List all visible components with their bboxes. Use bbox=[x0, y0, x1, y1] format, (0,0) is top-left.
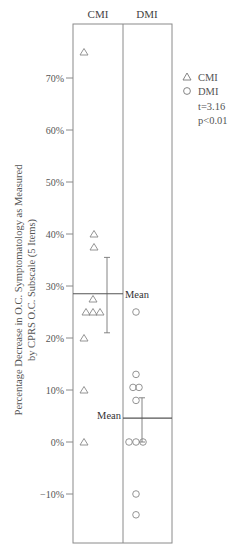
y-tick-label: 20% bbox=[46, 333, 64, 344]
y-tick-label: 70% bbox=[46, 73, 64, 84]
circle-marker bbox=[126, 439, 133, 446]
circle-marker bbox=[133, 491, 140, 498]
triangle-marker bbox=[96, 309, 104, 316]
triangle-marker bbox=[80, 335, 88, 342]
y-tick-label: 10% bbox=[46, 385, 64, 396]
y-axis-label-line2: by CPRS O.C. Subscale (5 Items) bbox=[26, 218, 38, 361]
legend-label-cmi: CMI bbox=[198, 72, 218, 83]
circle-marker bbox=[133, 371, 140, 378]
y-axis-label: Percentage Decrease in O.C. Symptomatolo… bbox=[13, 164, 38, 416]
triangle-marker bbox=[89, 309, 97, 316]
circle-marker bbox=[133, 397, 140, 404]
triangle-marker bbox=[80, 49, 88, 56]
y-tick-label: 40% bbox=[46, 229, 64, 240]
y-tick-label: −10% bbox=[40, 489, 64, 500]
mean-label-dmi: Mean bbox=[97, 410, 122, 421]
legend-item-cmi: CMI bbox=[183, 72, 218, 83]
y-tick-label: 50% bbox=[46, 177, 64, 188]
circle-marker bbox=[133, 309, 140, 316]
plot-frame bbox=[73, 24, 172, 543]
legend-item-dmi: DMI bbox=[184, 86, 219, 97]
y-tick-label: 60% bbox=[46, 125, 64, 136]
circle-marker bbox=[133, 512, 140, 519]
y-axis-label-line1: Percentage Decrease in O.C. Symptomatolo… bbox=[13, 164, 24, 416]
series-dmi bbox=[123, 309, 172, 518]
y-tick-label: 0% bbox=[51, 437, 64, 448]
column-header-cmi: CMI bbox=[88, 8, 109, 20]
dot-plot-chart: CMI DMI 70%60%50%40%30%20%10%0%−10% Perc… bbox=[0, 0, 242, 556]
legend: CMI DMI t=3.16 p<0.01 bbox=[183, 72, 228, 126]
triangle-marker bbox=[89, 296, 97, 303]
y-axis-ticks: 70%60%50%40%30%20%10%0%−10% bbox=[40, 73, 73, 500]
circle-icon bbox=[184, 88, 191, 95]
triangle-icon bbox=[183, 73, 191, 80]
series-cmi bbox=[73, 49, 123, 446]
triangle-marker bbox=[80, 439, 88, 446]
y-tick-label: 30% bbox=[46, 281, 64, 292]
triangle-marker bbox=[90, 231, 98, 238]
p-value: p<0.01 bbox=[198, 115, 228, 126]
mean-label-cmi: Mean bbox=[125, 289, 150, 300]
legend-label-dmi: DMI bbox=[198, 86, 219, 97]
triangle-marker bbox=[82, 309, 90, 316]
triangle-marker bbox=[80, 387, 88, 394]
triangle-marker bbox=[90, 244, 98, 251]
t-statistic: t=3.16 bbox=[198, 101, 225, 112]
circle-marker bbox=[133, 439, 140, 446]
column-header-dmi: DMI bbox=[136, 8, 158, 20]
